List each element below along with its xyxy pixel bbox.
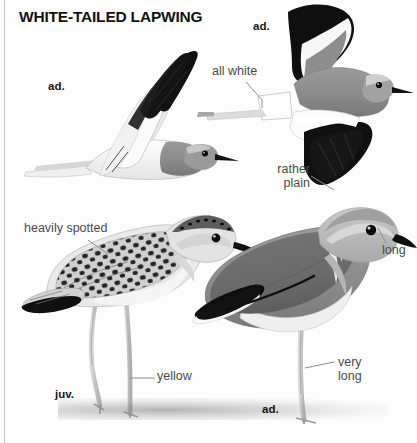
leader-long	[378, 228, 386, 243]
ground-shadow	[58, 398, 388, 420]
age-label-standing-juv: juv.	[55, 388, 74, 400]
annotation-rather-plain-line1: rather	[188, 162, 310, 176]
leader-very-long	[305, 362, 334, 368]
annotation-very-long-line1: very	[338, 355, 362, 369]
page-title: WHITE-TAILED LAPWING	[19, 8, 202, 26]
annotation-very-long: very long	[338, 355, 362, 383]
figure-flying-left	[24, 51, 239, 180]
annotation-heavily-spotted: heavily spotted	[24, 221, 107, 235]
annotation-rather-plain-line2: plain	[188, 176, 310, 190]
annotation-leader-lines	[88, 82, 386, 378]
field-guide-plate: WHITE-TAILED LAPWING ad. ad. juv. ad. al…	[0, 0, 417, 443]
annotation-yellow: yellow	[157, 369, 192, 383]
leader-heavily-spotted	[88, 240, 108, 254]
annotation-very-long-line2: long	[338, 369, 362, 383]
age-label-flying-right: ad.	[253, 20, 270, 32]
annotation-rather-plain: rather plain	[188, 162, 310, 190]
figure-standing-ad	[193, 208, 417, 424]
age-label-flying-left: ad.	[48, 80, 65, 92]
leader-rather-plain	[311, 176, 334, 190]
annotation-all-white: all white	[212, 64, 257, 78]
annotation-long: long	[382, 243, 406, 257]
leader-all-white	[246, 82, 262, 108]
figure-flying-right	[197, 5, 414, 186]
age-label-standing-ad: ad.	[262, 403, 279, 415]
page-margin-rule	[4, 0, 5, 443]
